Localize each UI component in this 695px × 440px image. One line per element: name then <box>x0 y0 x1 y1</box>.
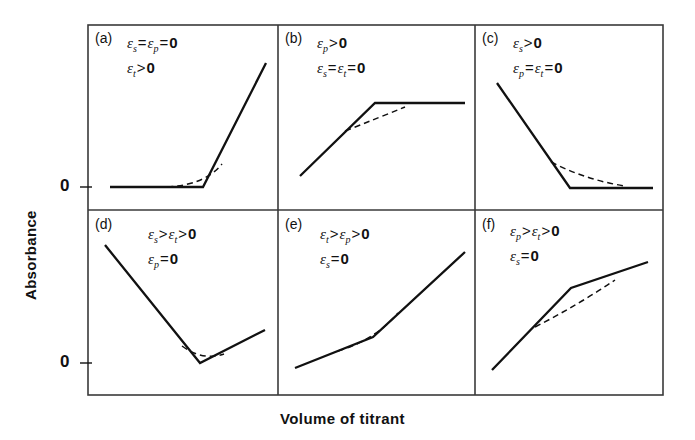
panel-f-conditions: εp>εt>0 εs=0 <box>510 220 560 269</box>
panel-label-b: (b) <box>285 30 302 46</box>
panel-e-conditions: εt>εp>0 εs=0 <box>320 223 370 272</box>
panel-label-d: (d) <box>95 216 112 232</box>
panel-a-conditions: εs=εp=0 εt>0 <box>127 32 178 81</box>
y-axis-ticks <box>80 187 92 363</box>
panel-b-conditions: εp>0 εs=εt=0 <box>317 32 365 81</box>
y-axis-label: Absorbance <box>22 210 39 300</box>
panel-label-e: (e) <box>285 216 302 232</box>
panel-label-f: (f) <box>482 216 495 232</box>
panel-b-curves <box>300 103 465 176</box>
panel-c-conditions: εs>0 εp=εt=0 <box>513 32 563 81</box>
panel-label-a: (a) <box>95 30 112 46</box>
panel-a-curves <box>110 63 266 187</box>
panel-d-conditions: εs>εt>0 εp=0 <box>148 223 196 272</box>
panel-c-curves <box>497 83 653 188</box>
figure-root: Absorbance Volume of titrant 0 0 (a) (b)… <box>0 0 695 440</box>
panel-label-c: (c) <box>482 30 498 46</box>
y-tick-zero-bottom: 0 <box>60 352 69 372</box>
y-tick-zero-top: 0 <box>60 176 69 196</box>
panel-f-curves <box>492 262 648 370</box>
x-axis-label: Volume of titrant <box>280 410 405 427</box>
